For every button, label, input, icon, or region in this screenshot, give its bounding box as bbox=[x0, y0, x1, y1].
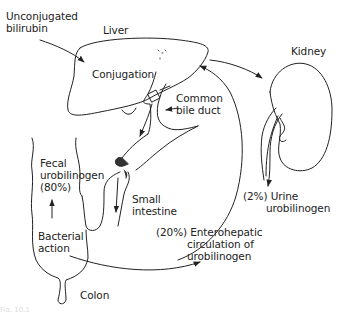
label-bacterial-action: Bacterial action bbox=[38, 230, 84, 254]
label-small-intestine: Small intestine bbox=[132, 193, 177, 217]
label-fecal-urobilinogen: Fecal urobilinogen (80%) bbox=[40, 157, 104, 193]
label-common-bile-duct: Common bile duct bbox=[176, 92, 223, 116]
bilirubin-metabolism-diagram: Unconjugated bilirubin Liver Conjugation… bbox=[0, 0, 343, 316]
figure-caption: Fig. 10.1 bbox=[0, 306, 40, 312]
label-urine-urobilinogen: (2%) Urine urobilinogen bbox=[243, 190, 330, 214]
bile-duct bbox=[144, 72, 156, 134]
label-unconjugated-bilirubin: Unconjugated bilirubin bbox=[6, 10, 78, 34]
label-conjugation: Conjugation bbox=[92, 68, 154, 80]
small-intestine bbox=[122, 126, 198, 170]
label-enterohepatic-circulation: (20%) Enterohepatic circulation of urobi… bbox=[156, 226, 262, 262]
label-liver: Liver bbox=[103, 24, 128, 36]
label-colon: Colon bbox=[80, 289, 109, 301]
label-kidney: Kidney bbox=[291, 45, 326, 57]
